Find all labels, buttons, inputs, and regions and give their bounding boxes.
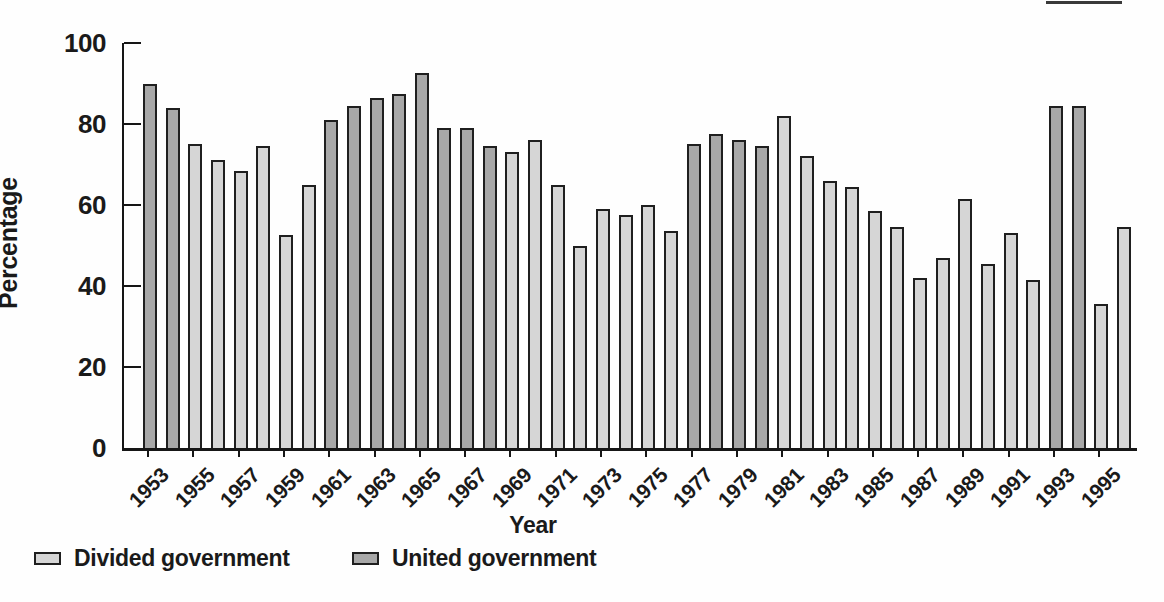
y-tick-40 <box>124 285 141 287</box>
bar-1996 <box>1117 227 1131 448</box>
x-tick-1955 <box>192 448 194 457</box>
bar-1964 <box>392 94 406 448</box>
legend-item-divided-government: Divided government <box>34 544 290 572</box>
bar-1960 <box>302 185 316 448</box>
x-tick-1991 <box>1008 448 1010 457</box>
bar-1987 <box>913 278 927 448</box>
x-tick-label-text-1993: 1993 <box>1031 463 1080 512</box>
bar-1974 <box>619 215 633 448</box>
legend-label-divided: Divided government <box>74 545 290 572</box>
y-tick-label-80: 80 <box>24 109 106 139</box>
y-tick-label-0: 0 <box>24 433 106 463</box>
x-tick-label-text-1957: 1957 <box>215 463 264 512</box>
y-tick-100 <box>124 42 141 44</box>
x-tick-1953 <box>147 448 149 457</box>
bar-1963 <box>370 98 384 448</box>
y-tick-label-20: 20 <box>24 352 106 382</box>
x-tick-1983 <box>827 448 829 457</box>
bar-1961 <box>324 120 338 448</box>
bar-1993 <box>1049 106 1063 448</box>
x-tick-label-text-1979: 1979 <box>714 463 763 512</box>
y-tick-60 <box>124 204 141 206</box>
bar-1984 <box>845 187 859 448</box>
y-tick-label-100: 100 <box>24 28 106 58</box>
x-tick-label-text-1967: 1967 <box>442 463 491 512</box>
bar-1979 <box>732 140 746 448</box>
y-tick-label-40: 40 <box>24 271 106 301</box>
bar-1978 <box>709 134 723 448</box>
x-tick-1987 <box>917 448 919 457</box>
bar-1957 <box>234 171 248 448</box>
x-tick-1965 <box>419 448 421 457</box>
scanned-bar-chart-figure: Percentage 020406080100 1953195519571959… <box>0 0 1164 602</box>
x-tick-1969 <box>509 448 511 457</box>
x-tick-1995 <box>1098 448 1100 457</box>
plot-area <box>122 43 1137 451</box>
y-tick-20 <box>124 366 141 368</box>
x-tick-1977 <box>691 448 693 457</box>
bar-1986 <box>890 227 904 448</box>
bar-1989 <box>958 199 972 448</box>
x-tick-label-text-1983: 1983 <box>804 463 853 512</box>
y-tick-80 <box>124 123 141 125</box>
x-tick-label-text-1981: 1981 <box>759 463 808 512</box>
x-tick-label-text-1961: 1961 <box>306 463 355 512</box>
x-tick-label-text-1977: 1977 <box>668 463 717 512</box>
x-tick-1985 <box>872 448 874 457</box>
x-tick-label-text-1995: 1995 <box>1076 463 1125 512</box>
x-tick-1975 <box>645 448 647 457</box>
x-tick-1993 <box>1053 448 1055 457</box>
x-tick-label-text-1959: 1959 <box>261 463 310 512</box>
x-tick-1961 <box>328 448 330 457</box>
bar-1958 <box>256 146 270 448</box>
bar-1982 <box>800 156 814 448</box>
x-tick-label-text-1975: 1975 <box>623 463 672 512</box>
legend-label-united: United government <box>392 545 596 572</box>
bar-1970 <box>528 140 542 448</box>
bar-1967 <box>460 128 474 448</box>
x-tick-1963 <box>374 448 376 457</box>
bar-1968 <box>483 146 497 448</box>
bar-1973 <box>596 209 610 448</box>
bar-1985 <box>868 211 882 448</box>
bar-1981 <box>777 116 791 448</box>
x-tick-label-text-1987: 1987 <box>895 463 944 512</box>
bar-1991 <box>1004 233 1018 448</box>
x-tick-label-text-1963: 1963 <box>351 463 400 512</box>
bar-1959 <box>279 235 293 448</box>
y-axis-title-text: Percentage <box>0 177 23 309</box>
page-rule-line <box>1046 1 1122 4</box>
bar-1988 <box>936 258 950 448</box>
x-tick-1979 <box>736 448 738 457</box>
y-tick-label-60: 60 <box>24 190 106 220</box>
x-tick-1967 <box>464 448 466 457</box>
bar-1977 <box>687 144 701 448</box>
x-tick-1959 <box>283 448 285 457</box>
bar-1962 <box>347 106 361 448</box>
united-government-swatch-icon <box>352 552 379 565</box>
bar-1975 <box>641 205 655 448</box>
bar-1992 <box>1026 280 1040 448</box>
bar-1990 <box>981 264 995 448</box>
x-tick-1989 <box>962 448 964 457</box>
bar-1983 <box>823 181 837 448</box>
bar-1953 <box>143 84 157 449</box>
bar-1955 <box>188 144 202 448</box>
bar-1965 <box>415 73 429 448</box>
divided-government-swatch-icon <box>34 552 61 565</box>
x-tick-label-text-1971: 1971 <box>532 463 581 512</box>
legend-item-united-government: United government <box>352 544 596 572</box>
x-tick-1971 <box>555 448 557 457</box>
bar-1994 <box>1072 106 1086 448</box>
bar-1971 <box>551 185 565 448</box>
bar-1966 <box>437 128 451 448</box>
x-tick-label-text-1973: 1973 <box>578 463 627 512</box>
bar-1972 <box>573 246 587 449</box>
x-tick-1981 <box>781 448 783 457</box>
x-tick-1957 <box>238 448 240 457</box>
x-tick-label-text-1985: 1985 <box>850 463 899 512</box>
bar-1995 <box>1094 304 1108 448</box>
bar-1969 <box>505 152 519 448</box>
bar-1954 <box>166 108 180 448</box>
bar-1980 <box>755 146 769 448</box>
